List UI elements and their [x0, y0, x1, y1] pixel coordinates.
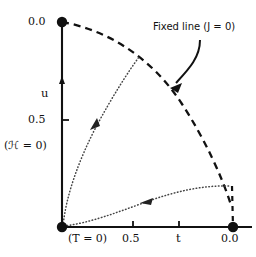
axis-lines — [58, 18, 252, 229]
fixed-point-origin — [57, 222, 67, 232]
y-axis-arrowhead-icon — [59, 76, 65, 84]
y-axis-zero-label: 0.0 — [28, 16, 46, 27]
fixed-line-annotation-label: Fixed line (J = 0) — [153, 22, 235, 32]
x-axis-mid-label: 0.5 — [122, 233, 140, 244]
trajectory-lower-curve — [64, 186, 231, 226]
fixed-line-curve — [62, 22, 233, 227]
y-axis-mid-label: 0.5 — [28, 114, 46, 125]
fixed-point-dots — [57, 17, 238, 232]
rg-flow-figure: 0.0 u 0.5 (ℋ = 0) (T = 0) 0.5 t 0.0 Fixe… — [0, 0, 256, 257]
fixed-line-leader-arrow — [170, 40, 200, 93]
fixed-point-top-left — [57, 17, 67, 27]
plot-canvas — [0, 0, 256, 257]
trajectory-upper-curve — [63, 57, 139, 226]
x-axis-variable-label: t — [176, 233, 181, 245]
y-axis-variable-label: u — [41, 88, 48, 100]
y-axis-condition-label: (ℋ = 0) — [4, 140, 47, 151]
x-axis-end-label: 0.0 — [221, 233, 239, 244]
fixed-point-right — [228, 222, 238, 232]
x-axis-origin-condition-label: (T = 0) — [68, 233, 107, 244]
